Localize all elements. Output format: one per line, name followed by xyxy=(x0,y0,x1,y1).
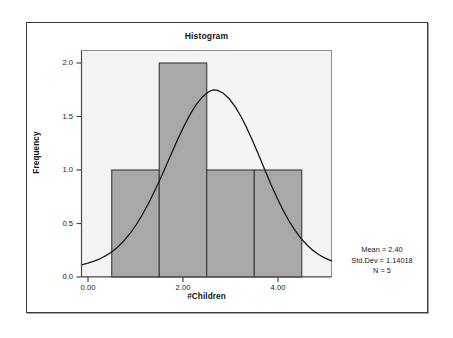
x-tick-label: 2.00 xyxy=(163,283,203,292)
x-axis-title: #Children xyxy=(81,292,332,301)
histogram-bar xyxy=(254,170,302,277)
y-tick-label: 2.0 xyxy=(47,58,73,67)
histogram-bar xyxy=(207,170,255,277)
x-tick-label: 0.00 xyxy=(68,283,108,292)
y-tick-label: 0.0 xyxy=(47,272,73,281)
stat-n: N = 5 xyxy=(339,266,425,277)
histogram-bar xyxy=(159,63,207,277)
y-tick-label: 1.0 xyxy=(47,165,73,174)
y-tick-label: 0.5 xyxy=(47,219,73,228)
statistics-annotation: Mean = 2.40 Std.Dev = 1.14018 N = 5 xyxy=(339,245,425,277)
y-axis-title: Frequency xyxy=(32,113,41,193)
histogram-figure: Histogram 2. xyxy=(0,0,453,338)
y-axis-ticks xyxy=(77,63,82,277)
x-axis-ticks xyxy=(88,277,278,282)
stat-mean: Mean = 2.40 xyxy=(339,245,425,256)
histogram-bar xyxy=(112,170,160,277)
x-tick-label: 4.00 xyxy=(258,283,298,292)
y-tick-label: 1.5 xyxy=(47,112,73,121)
stat-std-dev: Std.Dev = 1.14018 xyxy=(339,256,425,267)
